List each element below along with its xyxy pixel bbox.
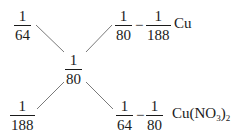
fraction-top-right-term2: 1 188 [146,9,171,43]
numerator: 1 [69,53,79,69]
denominator: 80 [146,115,163,133]
fraction-top-left: 1 64 [14,9,31,43]
denominator: 188 [146,25,171,43]
fraction-bottom-right-term2: 1 80 [146,99,163,133]
line-top-right-to-center [86,25,112,52]
minus-operator: − [135,18,143,33]
line-top-left-to-center [36,25,64,52]
label-copper-nitrate: Cu(NO3)2 [172,106,230,121]
numerator: 1 [120,99,130,115]
subscript-2: 2 [226,113,231,123]
denominator: 80 [65,69,82,87]
denominator: 64 [14,25,31,43]
formula-main: Cu(NO [172,105,216,121]
minus-operator: − [136,108,144,123]
label-cu: Cu [174,16,192,31]
denominator: 64 [116,115,133,133]
numerator: 1 [18,99,28,115]
numerator: 1 [18,9,28,25]
fraction-bottom-right-term1: 1 64 [116,99,133,133]
numerator: 1 [119,9,129,25]
numerator: 1 [150,99,160,115]
line-center-to-bottom-right [86,82,113,109]
denominator: 80 [115,25,132,43]
fraction-top-right-term1: 1 80 [115,9,132,43]
fraction-center: 1 80 [65,53,82,87]
fraction-bottom-left: 1 188 [10,99,35,133]
denominator: 188 [10,115,35,133]
numerator: 1 [154,9,164,25]
line-center-to-bottom-left [37,82,64,109]
